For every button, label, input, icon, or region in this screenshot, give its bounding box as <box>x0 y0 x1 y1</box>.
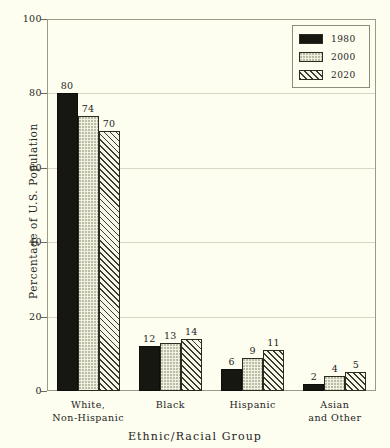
bar-1980 <box>139 346 160 391</box>
y-tick-label: 40 <box>2 236 42 247</box>
bar-2020 <box>345 372 366 391</box>
category-label-line: Non-Hispanic <box>47 412 129 425</box>
y-tick-label: 80 <box>2 87 42 98</box>
bar-value-label: 80 <box>51 80 84 91</box>
bar-value-label: 14 <box>175 326 208 337</box>
legend-label-1980: 1980 <box>331 34 356 44</box>
legend-label-2020: 2020 <box>331 70 356 80</box>
bar-2000 <box>242 358 263 391</box>
legend-item-2000: 2000 <box>299 49 363 64</box>
category-label-line: White, <box>47 399 129 412</box>
category-label-line: Hispanic <box>212 399 294 412</box>
y-tick-label: 20 <box>2 311 42 322</box>
legend-item-1980: 1980 <box>299 31 363 46</box>
bar-value-label: 5 <box>339 359 372 370</box>
legend-swatch-1980 <box>299 34 323 44</box>
category-label: Asianand Other <box>294 399 376 424</box>
legend-swatch-2020 <box>299 70 323 80</box>
category-label-line: Black <box>129 399 211 412</box>
category-label-line: Asian <box>294 399 376 412</box>
bar-2020 <box>181 339 202 391</box>
bar-1980 <box>221 369 242 391</box>
legend-item-2020: 2020 <box>299 67 363 82</box>
y-tick-label: 100 <box>2 13 42 24</box>
legend-swatch-2000 <box>299 52 323 62</box>
category-label: Black <box>129 399 211 412</box>
category-label: Hispanic <box>212 399 294 412</box>
bar-value-label: 11 <box>257 337 290 348</box>
bar-value-label: 74 <box>72 103 105 114</box>
bar-1980 <box>303 384 324 391</box>
bar-chart: Percentage of U.S. Population 0204060801… <box>0 0 390 448</box>
cropped-title-remnant <box>156 0 170 5</box>
bar-2000 <box>160 343 181 391</box>
legend: 1980 2000 2020 <box>292 25 370 88</box>
category-label: White,Non-Hispanic <box>47 399 129 424</box>
legend-label-2000: 2000 <box>331 52 356 62</box>
y-axis-title: Percentage of U.S. Population <box>27 96 39 326</box>
y-tick-mark <box>41 391 47 392</box>
bar-2020 <box>263 350 284 391</box>
bar-1980 <box>57 93 78 391</box>
x-axis-title: Ethnic/Racial Group <box>0 430 390 443</box>
category-label-line: and Other <box>294 412 376 425</box>
y-tick-label: 0 <box>2 385 42 396</box>
bar-value-label: 70 <box>93 118 126 129</box>
bar-2000 <box>78 116 99 391</box>
y-tick-label: 60 <box>2 162 42 173</box>
bar-2000 <box>324 376 345 391</box>
bar-2020 <box>99 131 120 391</box>
